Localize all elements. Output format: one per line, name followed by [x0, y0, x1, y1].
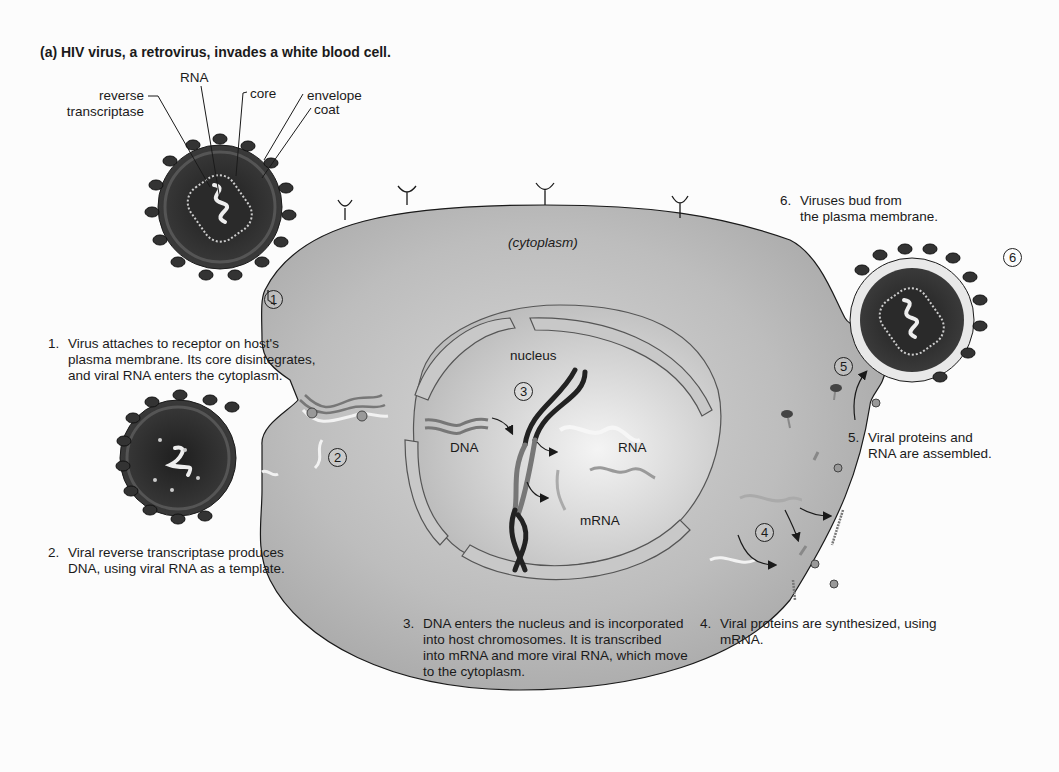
- step-marker-2: 2: [328, 448, 347, 467]
- label-rna: RNA: [180, 70, 209, 86]
- label-cytoplasm: (cytoplasm): [508, 235, 578, 251]
- label-nucleus: nucleus: [510, 348, 557, 364]
- step-1-caption: 1. Virus attaches to receptor on host's …: [48, 336, 316, 384]
- label-coat: coat: [314, 102, 340, 118]
- step-2-caption: 2. Viral reverse transcriptase produces …: [48, 545, 285, 577]
- label-reverse-transcriptase: reverse transcriptase: [36, 88, 144, 120]
- step-number: 1.: [48, 336, 68, 384]
- label-dna: DNA: [450, 440, 479, 456]
- step-text: Viral reverse transcriptase produces DNA…: [68, 545, 285, 577]
- step-text: Viruses bud from the plasma membrane.: [800, 193, 938, 225]
- label-core: core: [250, 86, 276, 102]
- step-6-caption: 6. Viruses bud from the plasma membrane.: [780, 193, 938, 225]
- hiv-virus-budding: [850, 244, 987, 382]
- step-text: Viral proteins are synthesized, using mR…: [720, 616, 937, 648]
- figure-title: (a) HIV virus, a retrovirus, invades a w…: [40, 44, 391, 60]
- step-marker-1: 1: [264, 290, 283, 309]
- step-5-caption: 5. Viral proteins and RNA are assembled.: [848, 430, 992, 462]
- step-3-caption: 3. DNA enters the nucleus and is incorpo…: [403, 616, 688, 680]
- step-marker-6: 6: [1003, 248, 1022, 267]
- step-marker-5: 5: [834, 357, 853, 376]
- step-number: 6.: [780, 193, 800, 225]
- step-number: 2.: [48, 545, 68, 577]
- step-marker-4: 4: [755, 523, 774, 542]
- label-rna-nucleus: RNA: [618, 440, 647, 456]
- step-marker-3: 3: [514, 382, 533, 401]
- step-text: Viral proteins and RNA are assembled.: [868, 430, 992, 462]
- label-mrna: mRNA: [580, 513, 620, 529]
- step-text: DNA enters the nucleus and is incorporat…: [423, 616, 688, 680]
- hiv-virus-entering: [116, 390, 239, 524]
- step-text: Virus attaches to receptor on host's pla…: [68, 336, 316, 384]
- step-4-caption: 4. Viral proteins are synthesized, using…: [700, 616, 937, 648]
- step-number: 4.: [700, 616, 720, 648]
- step-number: 3.: [403, 616, 423, 680]
- hiv-virus-free: [145, 134, 296, 280]
- step-number: 5.: [848, 430, 868, 462]
